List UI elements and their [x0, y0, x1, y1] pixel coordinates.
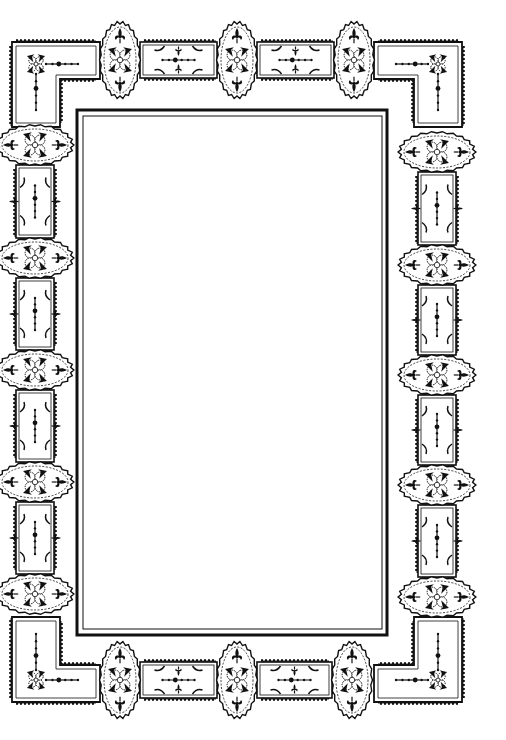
horizontal-panel — [254, 659, 335, 701]
horizontal-panel — [137, 659, 220, 701]
medallion — [100, 642, 141, 719]
medallion — [0, 238, 74, 279]
vertical-panel — [9, 275, 61, 353]
medallion — [0, 462, 74, 503]
medallion — [100, 22, 141, 99]
horizontal-panel — [254, 39, 337, 81]
medallion — [0, 350, 74, 391]
horizontal-panel — [137, 39, 220, 81]
medallion — [0, 125, 74, 166]
medallion — [398, 245, 476, 286]
medallion — [398, 132, 476, 173]
vertical-panel — [9, 499, 61, 577]
vertical-panel — [9, 162, 61, 241]
medallion — [217, 22, 258, 99]
medallion — [398, 355, 476, 396]
border-artwork — [0, 0, 506, 740]
medallion — [0, 574, 74, 615]
vertical-panel — [411, 169, 463, 248]
vertical-panel — [411, 282, 463, 358]
vertical-panel — [411, 392, 463, 468]
medallion — [334, 22, 375, 99]
ornamental-border — [0, 0, 506, 740]
vertical-panel — [411, 502, 463, 580]
medallion — [217, 642, 258, 719]
vertical-panel — [9, 387, 61, 465]
medallion — [398, 465, 476, 506]
medallion — [332, 642, 373, 719]
frame-outer-line — [77, 110, 387, 635]
medallion — [398, 577, 476, 618]
inner-frame — [77, 110, 387, 635]
